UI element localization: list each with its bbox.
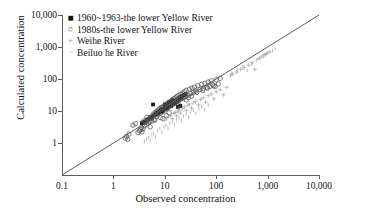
scatter-point [218,76,222,80]
scatter-point [235,70,239,74]
scatter-point [212,97,216,101]
x-tick-label: 1,000 [257,181,278,191]
legend-label-1: 1980s-the lower Yellow River [77,24,192,35]
x-tick-label: 10,000 [306,181,332,191]
y-tick-label: 1 [52,138,57,148]
scatter-point [225,85,229,89]
scatter-point [222,93,226,97]
scatter-point [250,61,254,65]
plus-marker-icon: + [64,36,77,45]
y-tick-label: 10,000 [31,10,57,20]
scatter-point [163,118,167,122]
chart-legend: ■ 1960~1963-the lower Yellow River ○ 198… [64,12,213,58]
scatter-point [203,100,207,104]
scatter-point [133,122,137,126]
scatter-point [131,123,135,127]
scatter-series-1 [123,76,222,141]
x-tick-mark [268,175,269,179]
legend-label-0: 1960~1963-the lower Yellow River [77,12,213,23]
scatter-point [151,103,155,107]
scatter-point [246,63,250,67]
legend-item-3: ‧ Beiluo he River [64,47,213,59]
legend-item-0: ■ 1960~1963-the lower Yellow River [64,12,213,24]
tick-marker-icon: ‧ [64,48,77,57]
legend-label-2: Weihe River [77,35,125,46]
y-axis-title: Calculated concentration [15,4,26,132]
legend-item-2: + Weihe River [64,35,213,47]
y-tick-label: 10 [48,106,58,116]
legend-label-3: Beiluo he River [77,47,138,58]
scatter-point [189,106,193,110]
x-tick-mark [319,175,320,179]
x-axis-title: Observed concentration [0,193,371,204]
scatter-point [164,113,168,117]
x-tick-mark [216,175,217,179]
scatter-point [239,67,243,71]
chart-figure: Calculated concentration Observed concen… [0,0,371,213]
scatter-point [253,67,257,71]
x-tick-label: 1 [111,181,116,191]
x-axis-line [62,175,319,176]
scatter-point [218,88,222,92]
filled-square-marker-icon: ■ [64,13,77,23]
legend-item-1: ○ 1980s-the lower Yellow River [64,24,213,36]
x-tick-label: 100 [209,181,223,191]
open-circle-marker-icon: ○ [64,25,77,34]
x-tick-mark [165,175,166,179]
scatter-point [148,125,152,129]
y-tick-label: 1,000 [36,42,57,52]
x-tick-label: 10 [160,181,170,191]
x-tick-mark [113,175,114,179]
y-tick-label: 100 [43,74,57,84]
x-tick-label: 0.1 [56,181,68,191]
scatter-point [214,90,218,94]
scatter-point [196,103,200,107]
